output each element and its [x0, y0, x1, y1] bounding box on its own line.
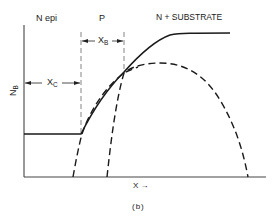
- region-label-substrate: N + SUBSTRATE: [156, 13, 222, 22]
- region-label-p: P: [99, 14, 105, 23]
- xc-label: XC: [47, 78, 58, 87]
- xb-label-sub: B: [104, 39, 108, 46]
- xb-label: XB: [98, 36, 108, 45]
- xc-label-sub: C: [53, 81, 58, 88]
- y-axis-label: NB: [9, 85, 18, 96]
- y-axis-label-sub: B: [12, 85, 19, 89]
- left-dashed-curve: [73, 67, 138, 177]
- y-axis-label-main: N: [8, 90, 18, 97]
- x-axis-label: X →: [133, 182, 149, 190]
- figure-caption: (b): [132, 203, 145, 211]
- region-label-n-epi: N epi: [36, 14, 57, 23]
- right-dashed-curve: [107, 63, 248, 177]
